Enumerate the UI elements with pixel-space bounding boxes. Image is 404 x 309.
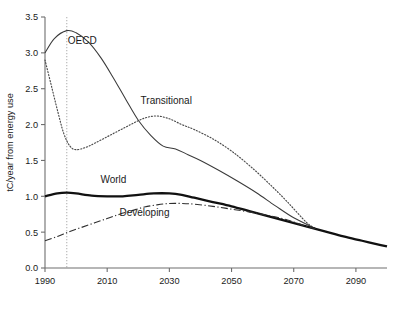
series-label-transitional: Transitional [141,95,192,106]
x-tick-label: 2010 [97,276,117,286]
line-chart: 0.00.51.01.52.02.53.03.51990201020302050… [0,0,404,309]
series-label-developing: Developing [119,207,169,218]
y-tick-label: 3.5 [25,12,38,22]
x-tick-label: 2070 [284,276,304,286]
x-tick-label: 2050 [221,276,241,286]
series-line-world [45,193,387,247]
y-tick-label: 1.5 [25,156,38,166]
series-label-oecd: OECD [68,35,97,46]
chart-figure: 0.00.51.01.52.02.53.03.51990201020302050… [0,0,404,309]
y-tick-label: 0.5 [25,228,38,238]
y-tick-label: 2.5 [25,84,38,94]
y-axis-label: tC/year from energy use [5,93,15,192]
x-tick-label: 2030 [159,276,179,286]
series-label-world: World [100,174,126,185]
series-line-developing [45,203,315,240]
x-tick-label: 2090 [346,276,366,286]
y-tick-label: 2.0 [25,120,38,130]
y-tick-label: 3.0 [25,48,38,58]
y-tick-label: 0.0 [25,263,38,273]
series-line-transitional [45,60,315,229]
y-tick-label: 1.0 [25,192,38,202]
x-tick-label: 1990 [35,276,55,286]
series-line-oecd [45,30,315,228]
